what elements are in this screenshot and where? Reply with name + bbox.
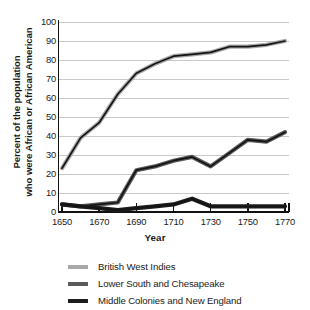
y-tick-label: 50	[30, 112, 56, 122]
series-line-2	[62, 132, 285, 206]
plot-area	[58, 20, 290, 214]
y-tick-label: 80	[30, 55, 56, 65]
x-axis-title: Year	[0, 232, 310, 243]
plot-svg	[58, 20, 290, 214]
legend-item-3: Middle Colonies and New England	[68, 292, 304, 309]
legend-label: Middle Colonies and New England	[98, 295, 242, 306]
y-tick-label: 20	[30, 169, 56, 179]
x-tick-label: 1730	[194, 216, 228, 227]
y-tick-label: 10	[30, 188, 56, 198]
chart-figure: Percent of the population who were Afric…	[0, 0, 310, 310]
x-axis-tick-labels: 1650167016901710173017501770	[0, 216, 310, 232]
x-tick-label: 1650	[45, 216, 79, 227]
x-tick-label: 1750	[231, 216, 265, 227]
x-tick-label: 1690	[119, 216, 153, 227]
y-axis-tick-labels: 0102030405060708090100	[26, 0, 56, 234]
y-tick-label: 40	[30, 131, 56, 141]
x-tick-label: 1770	[268, 216, 302, 227]
y-tick-label: 90	[30, 36, 56, 46]
chart-legend: British West IndiesLower South and Chesa…	[68, 258, 304, 309]
legend-swatch-icon	[68, 282, 88, 286]
y-tick-label: 70	[30, 74, 56, 84]
x-tick-label: 1670	[82, 216, 116, 227]
legend-item-2: Lower South and Chesapeake	[68, 275, 304, 292]
legend-label: British West Indies	[98, 261, 175, 272]
y-tick-label: 100	[30, 17, 56, 27]
legend-swatch-icon	[68, 265, 88, 269]
x-tick-label: 1710	[157, 216, 191, 227]
legend-swatch-icon	[68, 299, 88, 303]
y-tick-label: 30	[30, 150, 56, 160]
legend-item-1: British West Indies	[68, 258, 304, 275]
y-tick-label: 60	[30, 93, 56, 103]
legend-label: Lower South and Chesapeake	[98, 278, 224, 289]
series-halo-2	[62, 132, 285, 206]
y-axis-title-line1: Percent of the population	[11, 27, 23, 196]
